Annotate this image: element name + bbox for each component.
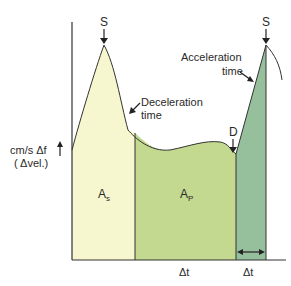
acceleration-label: Acceleration: [181, 51, 242, 63]
acceleration-label-time: time: [222, 65, 243, 77]
y-axis-label-sub: ( Δvel.): [14, 157, 48, 169]
arrow-down-icon: [262, 29, 270, 44]
arrow-down-icon: [100, 29, 108, 44]
delta-t-left-label: Δt: [179, 266, 189, 278]
velocity-diagram: S S D Deceleration time Acceleration tim…: [0, 0, 291, 286]
arrow-up-icon: [57, 141, 63, 156]
y-axis-label: cm/s Δf: [10, 144, 48, 156]
arrow-pointer-icon: [129, 103, 140, 114]
dip-label: D: [229, 125, 238, 139]
delta-t-right-label: Δt: [243, 266, 253, 278]
area-acceleration-region: [236, 45, 266, 260]
deceleration-label-time: time: [141, 109, 162, 121]
peak-right-label: S: [262, 15, 270, 29]
peak-left-label: S: [100, 15, 108, 29]
area-s-region: [72, 45, 135, 260]
deceleration-label: Deceleration: [141, 96, 203, 108]
